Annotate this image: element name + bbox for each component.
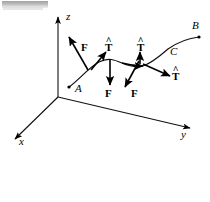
tangent-vector-2-label: ^ T bbox=[137, 41, 144, 53]
point-B-label: B bbox=[192, 20, 199, 31]
tangent-vector-3 bbox=[143, 64, 170, 76]
y-axis-line bbox=[58, 97, 190, 128]
point-A-label: A bbox=[75, 83, 82, 94]
force-vector-2-label: F bbox=[105, 88, 112, 99]
force-vector-1-label: F bbox=[81, 42, 88, 53]
space-curve bbox=[69, 37, 199, 87]
x-axis-line bbox=[15, 97, 58, 139]
circumflex-accent-icon: ^ bbox=[138, 35, 144, 46]
circumflex-accent-icon: ^ bbox=[106, 35, 112, 46]
y-axis-label: y bbox=[181, 129, 186, 140]
force-vector-3-label: F bbox=[131, 88, 138, 99]
circumflex-accent-icon: ^ bbox=[173, 64, 179, 75]
tangent-vector-1 bbox=[91, 52, 106, 70]
axis-lines bbox=[15, 17, 190, 139]
tangent-vector-1-label: ^ T bbox=[105, 41, 112, 53]
point-A-dot bbox=[67, 85, 70, 88]
point-B-dot bbox=[197, 35, 200, 38]
point-C-label: C bbox=[170, 46, 177, 57]
z-axis-label: z bbox=[66, 11, 70, 22]
tangent-vector-3-label: ^ T bbox=[172, 70, 179, 82]
figure-canvas: z y x A B C F F F ^ T ^ T ^ T bbox=[0, 0, 210, 202]
vector-diagram bbox=[0, 0, 210, 202]
x-axis-label: x bbox=[19, 136, 24, 147]
